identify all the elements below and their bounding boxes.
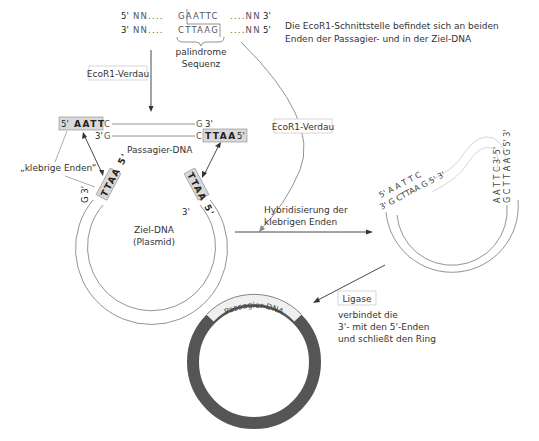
- target-plasmid: TTAA 5' TTAA 5' G 3' 3' Ziel-DNA (Plasmi…: [76, 150, 228, 324]
- cut-curve-arrow: [241, 42, 304, 228]
- strand2-left-nn: NN....: [133, 25, 164, 35]
- recombinant-plasmid: Passagier-DNA: [193, 294, 315, 423]
- description-line1: Die EcoR1-Schnittstelle befindet sich an…: [285, 21, 499, 31]
- strand2-right-prime: 5': [263, 25, 271, 35]
- left-top-base: C: [104, 119, 111, 129]
- palindrome-brace: [177, 37, 224, 46]
- hybrid-right-ends: A A T T C 3' 5' G C T T A A G 5' 3': [493, 129, 512, 203]
- left-target-sticky: TTAA 5': [96, 150, 130, 200]
- strand1-left-prime: 5': [121, 11, 129, 21]
- left-target-end-text: G 3': [80, 186, 90, 203]
- ligase-arrowhead: [313, 297, 320, 303]
- hybrid-inner-strand: [397, 205, 507, 265]
- right-double-arrow: [202, 142, 221, 178]
- right-bottom-base: C: [196, 131, 203, 141]
- passenger-label: Passagier-DNA: [127, 145, 193, 155]
- description-line2: Enden der Passagier- und in der Ziel-DNA: [285, 34, 472, 44]
- step1-arrowhead: [149, 106, 154, 112]
- recombinant-ring: [193, 301, 315, 423]
- strand1-left-nn: NN....: [133, 11, 164, 21]
- hybrid-right-top: A A T T C 3' 5': [493, 147, 502, 203]
- right-target-sticky-text: TTAA 5': [185, 171, 217, 218]
- ligase-desc-line2: 3'- mit den 5'-Enden: [338, 322, 430, 332]
- step2-label: EcoR1-Verdau: [272, 122, 334, 132]
- hybridization-arrowhead: [366, 230, 373, 235]
- right-top-base: G: [196, 119, 204, 129]
- hybridization-label-line1: Hybridisierung der: [264, 205, 348, 215]
- ligase-label: Ligase: [343, 294, 372, 304]
- strand2-right-nn: ....NN: [230, 25, 261, 35]
- ligase-desc-line1: verbindet die: [338, 310, 398, 320]
- plasmid-inner-strand: [88, 205, 216, 311]
- strand1-right-nn: ....NN: [230, 11, 261, 21]
- hybrid-outer-strand: [386, 200, 518, 272]
- passenger-dna: 5' AATT C G 3' 3' G C TTAA 5' Passagier-…: [59, 117, 247, 155]
- step1-label: EcoR1-Verdau: [87, 69, 149, 79]
- palindrome-label-line2: Sequenz: [182, 59, 221, 69]
- strand1-right-prime: 3': [263, 11, 271, 21]
- right-sticky-prime: 5': [237, 131, 245, 141]
- sticky-pointer-top: [55, 131, 67, 162]
- right-sticky-seq: TTAA: [205, 131, 237, 141]
- recombinant-dna-diagram: 5' NN.... GAATTC ....NN 3' 3' NN.... CTT…: [0, 0, 539, 441]
- target-label-line1: Ziel-DNA: [134, 225, 175, 235]
- target-label-line2: (Plasmid): [133, 237, 175, 247]
- palindrome-label-line1: palindrome: [176, 47, 227, 57]
- right-top-prime: 3': [205, 119, 213, 129]
- left-bottom-prime: 3': [95, 131, 103, 141]
- left-target-end: G 3': [80, 186, 90, 203]
- hybridization-label-line2: klebrigen Enden: [264, 217, 337, 227]
- ligase-desc-line3: und schließt den Ring: [338, 334, 436, 344]
- hybrid-molecule: 5' A A T T C 3' G CTTAA G 5' 3' A A T T …: [373, 129, 518, 272]
- left-sticky-prime: 5': [61, 119, 69, 129]
- sticky-ends-label: „klebrige Enden“: [20, 163, 96, 173]
- left-sticky-seq: AATT: [74, 119, 106, 129]
- sticky-pointer-bottom: [65, 176, 95, 187]
- strand2-left-prime: 3': [121, 25, 129, 35]
- hybrid-right-bottom: G C T T A A G 5' 3': [503, 129, 512, 203]
- hybrid-left-ends: 5' A A T T C 3' G CTTAA G 5' 3': [373, 160, 447, 212]
- left-target-sticky-text: TTAA 5': [99, 151, 131, 198]
- right-target-end: 3': [182, 207, 190, 217]
- top-sequence: 5' NN.... GAATTC ....NN 3' 3' NN.... CTT…: [121, 9, 271, 69]
- strand2-sequence: CTTAAG: [178, 25, 219, 35]
- strand1-sequence: GAATTC: [178, 11, 219, 21]
- plasmid-outer-strand: [76, 200, 228, 325]
- left-bottom-base: G: [104, 131, 112, 141]
